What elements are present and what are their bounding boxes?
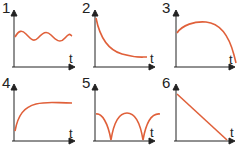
curve-decay (96, 18, 147, 57)
graph-panel-4: 4 t (0, 73, 80, 146)
t-axis-label: t (69, 127, 73, 140)
curve-linear-down (177, 94, 227, 140)
graph-panel-2: 2 t (80, 0, 160, 73)
t-axis-label: t (229, 53, 233, 66)
t-axis-label: t (69, 52, 73, 65)
graph-plot (160, 0, 240, 73)
axes (11, 10, 75, 70)
graph-plot (0, 0, 80, 73)
graph-panel-3: 3 t (160, 0, 240, 73)
graph-plot (160, 73, 240, 146)
graph-plot (80, 0, 160, 73)
graph-panel-1: 1 t (0, 0, 80, 73)
curve-arch (177, 22, 236, 63)
graph-plot (80, 73, 160, 146)
t-axis-label: t (150, 52, 154, 65)
graph-plot (0, 73, 80, 146)
t-axis-label: t (150, 126, 154, 139)
t-axis-label: t (230, 126, 234, 139)
curve-rise (15, 102, 72, 131)
graph-panel-5: 5 t (80, 73, 160, 146)
curve-sine (15, 31, 72, 41)
graph-panel-6: 6 t (160, 73, 240, 146)
